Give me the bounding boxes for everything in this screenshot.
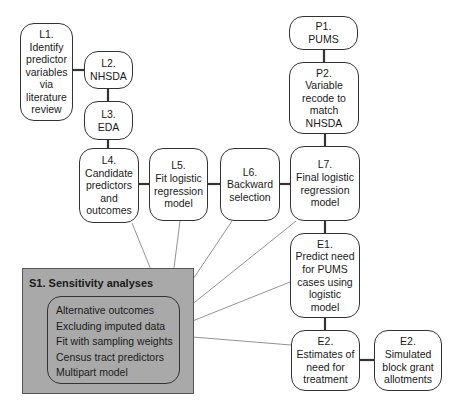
- node-id: L3.: [101, 108, 116, 121]
- node-text: Simulated block grant allotments: [378, 348, 438, 386]
- node-p1: P1. PUMS: [289, 16, 358, 50]
- node-l1: L1. Identify predictor variables via lit…: [20, 23, 73, 121]
- node-text: PUMS: [308, 33, 338, 46]
- node-text: Variable recode to match NHSDA: [293, 79, 355, 129]
- node-l4: L4. Candidate predictors and outcomes: [79, 148, 139, 223]
- node-l7: L7. Final logistic regression model: [290, 146, 360, 221]
- node-id: L7.: [318, 158, 333, 171]
- node-text: NHSDA: [90, 70, 127, 83]
- node-l2: L2. NHSDA: [84, 51, 133, 89]
- node-e1: E1. Predict need for PUMS cases using lo…: [290, 233, 360, 318]
- node-e2-estimates: E2. Estimates of need for treatment: [291, 330, 360, 391]
- node-id: L2.: [101, 57, 116, 70]
- node-id: L6.: [243, 166, 258, 179]
- node-id: E2.: [400, 335, 416, 348]
- sensitivity-analyses-panel: S1. Sensitivity analyses Alternative out…: [22, 268, 194, 394]
- sensitivity-item: Alternative outcomes: [56, 303, 179, 319]
- node-text: Identify predictor variables via literat…: [24, 41, 69, 117]
- node-id: P2.: [316, 67, 332, 80]
- sensitivity-item: Multipart model: [56, 365, 179, 381]
- node-l6: L6. Backward selection: [220, 148, 280, 221]
- node-id: E1.: [317, 238, 333, 251]
- sensitivity-item: Census tract predictors: [56, 350, 179, 366]
- node-text: Final logistic regression model: [294, 171, 356, 209]
- node-id: P1.: [316, 20, 332, 33]
- sensitivity-list: Alternative outcomes Excluding imputed d…: [47, 296, 180, 384]
- node-text: EDA: [98, 121, 120, 134]
- sensitivity-title: S1. Sensitivity analyses: [29, 277, 153, 289]
- node-id: E2.: [318, 335, 334, 348]
- node-id: L4.: [102, 154, 117, 167]
- node-text: Fit logistic regression model: [153, 172, 204, 210]
- node-id: L5.: [171, 159, 186, 172]
- node-l3: L3. EDA: [84, 101, 133, 140]
- node-p2: P2. Variable recode to match NHSDA: [289, 62, 359, 134]
- node-l5: L5. Fit logistic regression model: [149, 148, 208, 221]
- node-text: Predict need for PUMS cases using logist…: [294, 250, 356, 313]
- sensitivity-item: Excluding imputed data: [56, 319, 179, 335]
- node-text: Estimates of need for treatment: [295, 348, 356, 386]
- node-text: Backward selection: [224, 178, 276, 203]
- node-id: L1.: [39, 28, 54, 41]
- node-text: Candidate predictors and outcomes: [83, 167, 135, 217]
- sensitivity-item: Fit with sampling weights: [56, 334, 179, 350]
- node-e2-allotments: E2. Simulated block grant allotments: [374, 330, 442, 391]
